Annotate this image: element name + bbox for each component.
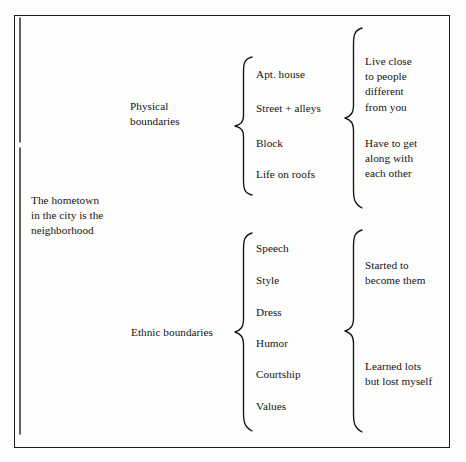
item-ethnic-0: Speech	[256, 241, 289, 256]
item-ethnic-5: Values	[256, 399, 286, 414]
outcome-ethnic-1: Learned lots but lost myself	[365, 359, 457, 389]
root-label: The hometown in the city is the neighbor…	[31, 193, 161, 239]
outcome-ethnic-0: Started to become them	[365, 258, 455, 288]
item-ethnic-4: Courtship	[256, 367, 301, 382]
item-physical-0: Apt. house	[256, 67, 305, 82]
root-spine	[18, 16, 28, 436]
item-physical-1: Street + alleys	[256, 101, 321, 116]
outcome-physical-1: Have to get along with each other	[365, 136, 449, 182]
branch-label-physical: Physical boundaries	[130, 99, 240, 129]
brace-ethnic-outcomes	[342, 228, 366, 434]
brace-physical-items	[232, 55, 256, 197]
item-ethnic-1: Style	[256, 273, 279, 288]
brace-ethnic-items	[232, 231, 256, 433]
item-ethnic-3: Humor	[256, 336, 288, 351]
diagram-canvas: The hometown in the city is the neighbor…	[0, 0, 466, 462]
item-ethnic-2: Dress	[256, 305, 282, 320]
item-physical-2: Block	[256, 136, 283, 151]
outcome-physical-0: Live close to people different from you	[365, 54, 449, 115]
brace-physical-outcomes	[342, 26, 366, 210]
item-physical-3: Life on roofs	[256, 167, 315, 182]
